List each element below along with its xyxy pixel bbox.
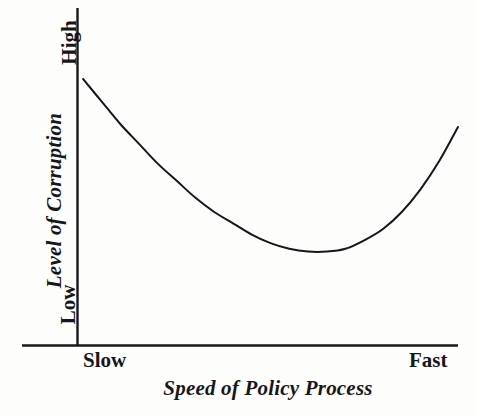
data-series-curve xyxy=(83,79,458,252)
figure-container: Level of Corruption High Low Slow Fast S… xyxy=(0,0,477,416)
plot-area xyxy=(0,0,477,416)
